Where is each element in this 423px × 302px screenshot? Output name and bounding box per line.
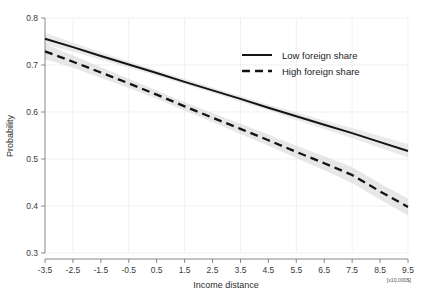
y-axis-tick-labels: 0.30.40.50.60.70.8 (26, 13, 38, 258)
y-tick-label: 0.4 (26, 201, 38, 211)
x-tick-label: 9.5 (402, 265, 414, 275)
y-tick-label: 0.8 (26, 13, 38, 23)
legend-label-low-foreign-share: Low foreign share (282, 50, 358, 61)
y-tick-label: 0.7 (26, 60, 38, 70)
x-axis-tick-labels: -3.5-2.5-1.5-0.50.51.52.53.54.55.56.57.5… (38, 265, 415, 275)
x-axis-unit-note: [x10,000$] (387, 277, 412, 283)
x-tick-label: 5.5 (290, 265, 302, 275)
x-tick-label: -2.5 (66, 265, 81, 275)
x-tick-label: -1.5 (94, 265, 109, 275)
x-tick-label: 3.5 (235, 265, 247, 275)
x-tick-label: -3.5 (38, 265, 53, 275)
x-tick-label: 2.5 (207, 265, 219, 275)
x-tick-label: 4.5 (262, 265, 274, 275)
x-tick-label: 7.5 (346, 265, 358, 275)
x-tick-label: -0.5 (121, 265, 136, 275)
x-tick-label: 6.5 (318, 265, 330, 275)
legend-label-high-foreign-share: High foreign share (282, 66, 360, 77)
x-tick-label: 0.5 (151, 265, 163, 275)
y-tick-label: 0.3 (26, 248, 38, 258)
x-tick-label: 8.5 (374, 265, 386, 275)
y-tick-label: 0.5 (26, 154, 38, 164)
x-axis-ticks (45, 259, 408, 263)
probability-line-chart: 0.30.40.50.60.70.8 -3.5-2.5-1.5-0.50.51.… (0, 0, 423, 302)
x-tick-label: 1.5 (179, 265, 191, 275)
x-axis-title: Income distance (193, 280, 259, 290)
legend: Low foreign shareHigh foreign share (242, 50, 360, 77)
y-axis-ticks (41, 18, 45, 253)
chart-container: 0.30.40.50.60.70.8 -3.5-2.5-1.5-0.50.51.… (0, 0, 423, 302)
y-axis-title: Probability (5, 114, 15, 157)
y-tick-label: 0.6 (26, 107, 38, 117)
